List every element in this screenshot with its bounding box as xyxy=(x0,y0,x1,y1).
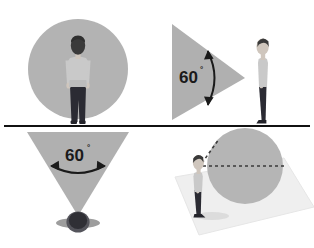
angle-label-top-view: 60 xyxy=(65,146,84,165)
person-shirt-shading xyxy=(69,80,87,87)
person-shirt-perspective xyxy=(193,172,202,192)
degree-symbol-side-view: ° xyxy=(200,65,203,74)
person-head-top-down xyxy=(69,212,87,229)
person-shoe-right xyxy=(79,120,85,124)
person-shirt-side xyxy=(258,58,268,87)
angle-label-side-view: 60 xyxy=(179,68,198,87)
person-shoe-left xyxy=(71,120,77,124)
degree-symbol-top-view: ° xyxy=(87,143,90,152)
diagram-canvas: 60 ° xyxy=(0,0,314,248)
fov-diagram-svg: 60 ° xyxy=(0,0,314,248)
